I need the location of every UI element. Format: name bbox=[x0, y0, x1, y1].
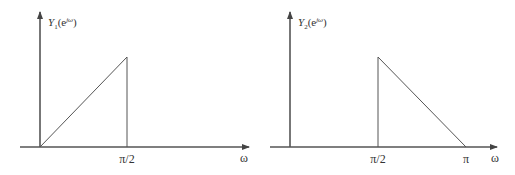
x-axis-label-1: ω bbox=[240, 151, 248, 165]
x-tick-pi-2: π bbox=[463, 152, 469, 166]
spectrum-figure: Y1(ejω) π/2 ω Y2(ejω) π/2 π ω bbox=[0, 0, 515, 175]
x-tick-pi-half-1: π/2 bbox=[119, 152, 134, 166]
plot-y1: Y1(ejω) π/2 ω bbox=[20, 12, 249, 166]
x-axis-label-2: ω bbox=[491, 151, 499, 165]
y1-axis-label: Y1(ejω) bbox=[48, 16, 77, 31]
y2-axis-label: Y2(ejω) bbox=[298, 16, 327, 31]
y2-curve bbox=[378, 57, 466, 147]
y1-curve bbox=[40, 57, 127, 147]
plot-y2: Y2(ejω) π/2 π ω bbox=[270, 12, 499, 166]
x-tick-pi-half-2: π/2 bbox=[370, 152, 385, 166]
